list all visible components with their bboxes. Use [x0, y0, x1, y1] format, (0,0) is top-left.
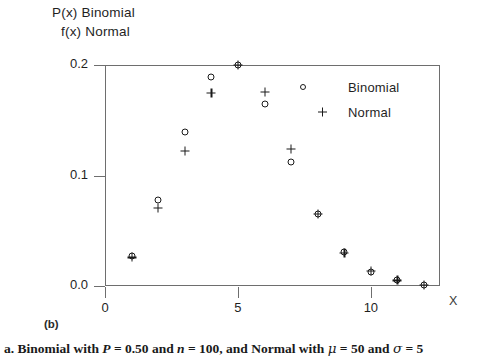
y-axis-tick-label: 0.1	[44, 167, 88, 182]
y-axis-label: P(x) Binomial f(x) Normal	[52, 3, 135, 41]
x-axis-tick-label: 10	[351, 300, 391, 315]
x-axis-tick-mark	[371, 287, 372, 298]
y-axis-tick-mark	[94, 65, 105, 66]
y-axis-tick-mark	[94, 286, 105, 287]
y-axis-tick-label: 0.0	[44, 277, 88, 292]
open-circle-icon	[300, 84, 306, 90]
figure-caption: a. Binomial with P = 0.50 and n = 100, a…	[4, 340, 482, 357]
x-axis-tick-mark	[238, 287, 239, 298]
x-axis-label: X	[449, 294, 457, 308]
y-axis-label-line-1: P(x) Binomial	[52, 3, 135, 22]
y-axis-tick-mark	[94, 176, 105, 177]
plot-area	[105, 65, 440, 286]
plus-icon	[318, 107, 327, 116]
y-axis-tick-label: 0.2	[44, 56, 88, 71]
x-axis-tick-label: 5	[218, 300, 258, 315]
x-axis-tick-mark	[105, 287, 106, 298]
legend-label-binomial: Binomial	[348, 79, 399, 94]
figure-panel-b: P(x) Binomial f(x) Normal 0.00.10.20510 …	[0, 0, 484, 360]
legend-label-normal: Normal	[348, 104, 391, 119]
y-axis-label-line-2: f(x) Normal	[52, 22, 135, 41]
panel-letter: (b)	[44, 318, 59, 330]
x-axis-tick-label: 0	[85, 300, 125, 315]
